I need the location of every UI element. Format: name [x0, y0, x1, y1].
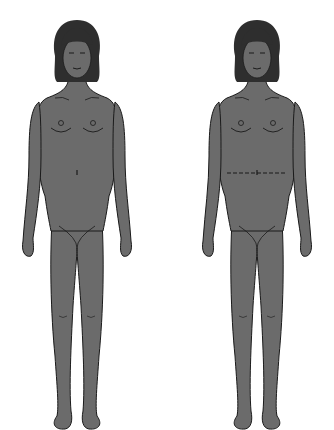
- illustration: [0, 0, 334, 430]
- figure-left: [22, 20, 131, 429]
- figure: [0, 0, 334, 430]
- figure-right: [202, 20, 311, 429]
